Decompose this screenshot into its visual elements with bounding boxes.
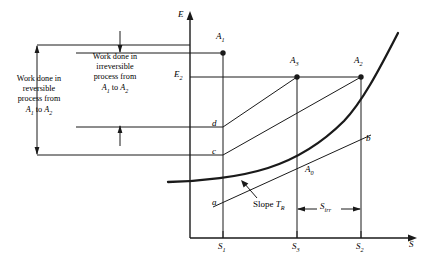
x-tick-label-s2: S2 (356, 241, 364, 253)
irreversible-work-line3: process from (76, 72, 154, 82)
thermodynamics-figure (0, 0, 429, 266)
sirr-arrow-left (297, 207, 305, 212)
point-marker-a2 (358, 74, 363, 79)
irreversible-work-line4: A1 to A2 (76, 83, 154, 96)
irreversible-work-line1: Work done in (76, 52, 154, 62)
reversible-work-line3: process from (4, 94, 74, 104)
reversible-work-line4: A1 to A2 (4, 105, 74, 118)
point-label-a: a (212, 197, 217, 207)
reversible-bracket-arrow-down (35, 147, 40, 155)
point-marker-a1 (220, 50, 225, 55)
irreversible-work-annotation: Work done in irreversible process from A… (76, 52, 154, 95)
slope-annotation: Slope TR (253, 199, 285, 211)
sirr-annotation: Sirr (320, 201, 331, 213)
sirr-arrow-right (353, 207, 361, 212)
tangent-line-slope-tr (213, 135, 371, 207)
irreversible-bracket-arrow-up-lower (118, 125, 123, 133)
point-label-a0: A0 (305, 164, 314, 176)
point-label-a1: A1 (216, 31, 225, 43)
point-marker-a3 (294, 74, 299, 79)
point-label-d: d (212, 118, 217, 128)
reversible-bracket-arrow-up (35, 45, 40, 53)
y-tick-label-e2: E2 (174, 69, 183, 81)
point-label-b: b (366, 133, 371, 143)
point-label-a3: A3 (290, 55, 299, 67)
reversible-work-line2: reversible (4, 84, 74, 94)
x-tick-label-s3: S3 (292, 241, 300, 253)
irreversible-work-line2: irreversible (76, 62, 154, 72)
process-line-c-to-a2 (223, 77, 361, 155)
y-axis-label: E (178, 9, 184, 19)
x-axis-label: S (409, 239, 414, 249)
reversible-work-annotation: Work done in reversible process from A1 … (4, 74, 74, 117)
y-axis-arrowhead (187, 11, 194, 20)
point-label-c: c (212, 146, 216, 156)
equilibrium-curve (168, 33, 398, 182)
point-label-a2: A2 (354, 55, 363, 67)
reversible-work-line1: Work done in (4, 74, 74, 84)
x-tick-label-s1: S1 (218, 241, 226, 253)
